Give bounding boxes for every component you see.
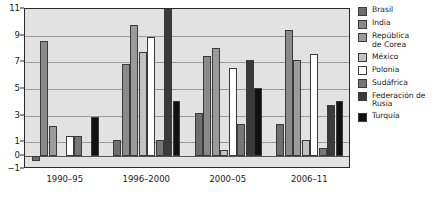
x-axis: 1990–951996–20002000–052006–11 xyxy=(24,170,350,192)
legend-swatch-icon xyxy=(358,66,367,75)
legend-item[interactable]: India xyxy=(358,19,443,29)
bar xyxy=(173,101,181,156)
bar xyxy=(229,68,237,156)
bar xyxy=(203,56,211,156)
legend-label: Polonia xyxy=(372,66,399,75)
bar xyxy=(302,140,310,156)
legend-swatch-icon xyxy=(358,79,367,88)
y-tick-label: −1 xyxy=(7,164,20,173)
legend-swatch-icon xyxy=(358,53,367,62)
y-tick-label: 11 xyxy=(9,4,20,13)
plot-area xyxy=(24,8,350,168)
bar xyxy=(130,25,138,156)
legend-item[interactable]: Polonia xyxy=(358,66,443,76)
bar xyxy=(254,88,262,156)
bar xyxy=(212,48,220,156)
legend: BrasilIndiaRepública de CoreaMéxicoPolon… xyxy=(358,6,443,125)
legend-swatch-icon xyxy=(358,113,367,122)
legend-item[interactable]: México xyxy=(358,53,443,63)
legend-label: India xyxy=(372,19,391,28)
legend-swatch-icon xyxy=(358,92,367,101)
bar xyxy=(40,41,48,156)
bar xyxy=(139,52,147,156)
legend-swatch-icon xyxy=(358,7,367,16)
legend-label: Sudáfrica xyxy=(372,79,408,88)
legend-item[interactable]: Sudáfrica xyxy=(358,79,443,89)
y-axis: −101357911 xyxy=(0,0,24,176)
bar xyxy=(276,124,284,156)
legend-item[interactable]: Federación de Rusia xyxy=(358,92,443,109)
bar-chart: −101357911 1990–951996–20002000–052006–1… xyxy=(0,0,443,197)
bars-layer xyxy=(25,9,349,167)
bar-group xyxy=(107,9,189,167)
bar xyxy=(195,113,203,156)
bar xyxy=(319,148,327,156)
bar xyxy=(327,105,335,156)
x-tick-label: 2006–11 xyxy=(291,174,328,184)
legend-label: Federación de Rusia xyxy=(372,92,426,109)
bar xyxy=(32,156,40,161)
legend-item[interactable]: Turquía xyxy=(358,112,443,122)
bar xyxy=(156,140,164,156)
x-tick-label: 2000–05 xyxy=(209,174,246,184)
bar xyxy=(237,124,245,156)
bar xyxy=(113,140,121,156)
bar xyxy=(220,150,228,155)
legend-label: Turquía xyxy=(372,112,400,121)
x-tick-label: 1990–95 xyxy=(46,174,83,184)
bar xyxy=(164,9,172,156)
legend-label: República de Corea xyxy=(372,32,409,49)
legend-swatch-icon xyxy=(358,33,367,42)
bar-group xyxy=(270,9,351,167)
legend-swatch-icon xyxy=(358,20,367,29)
bar xyxy=(74,136,82,156)
x-tick-label: 1996–2000 xyxy=(122,174,170,184)
legend-label: México xyxy=(372,53,399,62)
bar xyxy=(147,37,155,156)
bar xyxy=(310,54,318,155)
bar xyxy=(285,30,293,155)
bar xyxy=(246,60,254,156)
legend-label: Brasil xyxy=(372,6,393,15)
legend-item[interactable]: Brasil xyxy=(358,6,443,16)
bar xyxy=(49,126,57,155)
bar xyxy=(336,101,344,156)
bar-group xyxy=(25,9,107,167)
bar xyxy=(122,64,130,156)
bar xyxy=(66,136,74,156)
bar xyxy=(293,60,301,156)
bar-group xyxy=(188,9,270,167)
legend-item[interactable]: República de Corea xyxy=(358,32,443,49)
bar xyxy=(91,117,99,156)
